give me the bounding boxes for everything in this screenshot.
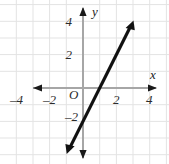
graph-canvas: y x O –4 –2 2 4 4 2 –2 [0, 0, 169, 164]
origin-label: O [69, 87, 79, 102]
figure-background [0, 0, 169, 164]
coordinate-plane-figure: y x O –4 –2 2 4 4 2 –2 [0, 0, 169, 164]
y-axis-label: y [90, 4, 98, 19]
y-tick-label-4: 4 [66, 14, 73, 29]
x-tick-label-neg4: –4 [9, 92, 24, 107]
x-tick-label-4: 4 [146, 92, 153, 107]
x-tick-label-neg2: –2 [42, 92, 57, 107]
x-tick-label-2: 2 [113, 92, 120, 107]
x-axis-label: x [149, 67, 156, 82]
y-tick-label-2: 2 [66, 47, 73, 62]
y-tick-label-neg2: –2 [64, 109, 79, 124]
